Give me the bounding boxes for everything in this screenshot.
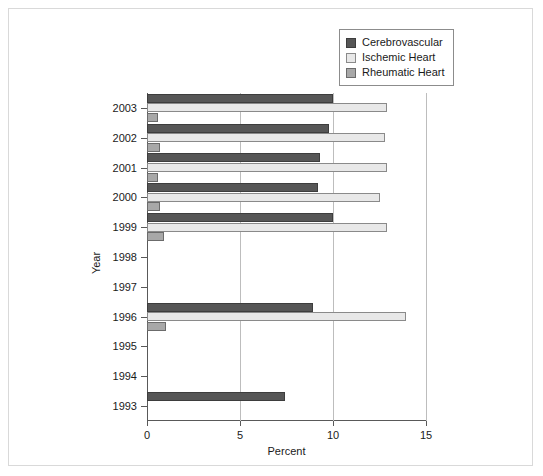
bar-cerebrovascular (147, 213, 333, 222)
y-axis-tick-label: 1999 (113, 221, 137, 233)
x-axis-tick-label: 10 (327, 429, 339, 441)
chart-legend: Cerebrovascular Ischemic Heart Rheumatic… (339, 29, 454, 86)
bar-group (147, 272, 426, 302)
bar-group (147, 153, 426, 183)
plot-area: 2003200220012000199919981997199619951994… (147, 93, 426, 421)
bar-group (147, 391, 426, 421)
bar-group (147, 123, 426, 153)
legend-swatch-ischemic-heart (346, 53, 356, 63)
y-axis-tick (141, 317, 147, 318)
y-axis-tick-label: 2003 (113, 102, 137, 114)
legend-swatch-rheumatic-heart (346, 68, 356, 78)
x-axis-tick-label: 15 (420, 429, 432, 441)
bar-cerebrovascular (147, 153, 320, 162)
y-axis-tick (141, 108, 147, 109)
bar-ischemic (147, 312, 406, 321)
gridline (426, 93, 427, 421)
y-axis-tick (141, 227, 147, 228)
y-axis-tick-label: 2000 (113, 191, 137, 203)
bar-rheumatic (147, 232, 164, 241)
x-axis-tick-label: 0 (144, 429, 150, 441)
y-axis-tick (141, 197, 147, 198)
x-axis-tick-label: 5 (237, 429, 243, 441)
y-axis-tick (141, 376, 147, 377)
y-axis-tick-label: 1997 (113, 281, 137, 293)
y-axis-tick (141, 138, 147, 139)
y-axis-tick (141, 257, 147, 258)
y-axis-tick-label: 1993 (113, 400, 137, 412)
y-axis-tick (141, 168, 147, 169)
chart-figure: Cerebrovascular Ischemic Heart Rheumatic… (8, 8, 533, 466)
legend-item-rheumatic-heart[interactable]: Rheumatic Heart (346, 65, 445, 80)
y-axis-tick-label: 1998 (113, 251, 137, 263)
bar-rheumatic (147, 173, 158, 182)
bar-ischemic (147, 193, 380, 202)
y-axis-tick (141, 346, 147, 347)
x-axis-tick (147, 421, 148, 426)
bar-cerebrovascular (147, 392, 285, 401)
bar-rheumatic (147, 322, 166, 331)
bar-rheumatic (147, 113, 158, 122)
y-axis-tick-label: 2002 (113, 132, 137, 144)
bar-cerebrovascular (147, 124, 329, 133)
legend-item-ischemic-heart[interactable]: Ischemic Heart (346, 50, 445, 65)
y-axis-tick-label: 2001 (113, 162, 137, 174)
x-axis-tick (426, 421, 427, 426)
bar-group (147, 332, 426, 362)
bar-group (147, 242, 426, 272)
bar-rheumatic (147, 202, 160, 211)
y-axis-tick-label: 1994 (113, 370, 137, 382)
x-axis-title: Percent (147, 445, 426, 457)
bar-group (147, 361, 426, 391)
bar-ischemic (147, 163, 387, 172)
y-axis-tick (141, 287, 147, 288)
bar-rheumatic (147, 143, 160, 152)
bar-group (147, 212, 426, 242)
legend-item-cerebrovascular[interactable]: Cerebrovascular (346, 35, 445, 50)
legend-label-cerebrovascular: Cerebrovascular (362, 36, 443, 49)
bar-group (147, 302, 426, 332)
bar-ischemic (147, 103, 387, 112)
bar-ischemic (147, 133, 385, 142)
bar-group (147, 182, 426, 212)
y-axis-title: Year (90, 252, 102, 274)
legend-label-ischemic-heart: Ischemic Heart (362, 51, 435, 64)
y-axis-tick-label: 1995 (113, 340, 137, 352)
bar-cerebrovascular (147, 303, 313, 312)
y-axis-tick (141, 406, 147, 407)
legend-swatch-cerebrovascular (346, 38, 356, 48)
bar-cerebrovascular (147, 94, 333, 103)
y-axis-tick-label: 1996 (113, 311, 137, 323)
bar-ischemic (147, 223, 387, 232)
bar-group (147, 93, 426, 123)
bar-cerebrovascular (147, 183, 318, 192)
legend-label-rheumatic-heart: Rheumatic Heart (362, 66, 445, 79)
x-axis-tick (333, 421, 334, 426)
x-axis-tick (240, 421, 241, 426)
